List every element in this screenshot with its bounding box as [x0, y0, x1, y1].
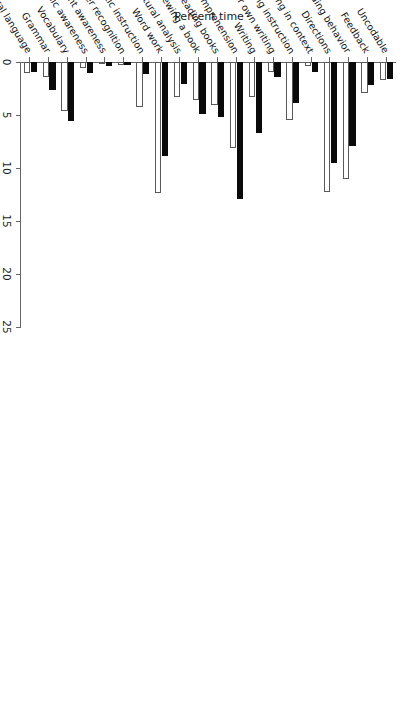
bar-group: Structural analysis [171, 62, 190, 327]
bar-group: Grammar [40, 62, 59, 327]
bar-group: Phonemic awareness [77, 62, 96, 327]
bar-group: Writing [246, 62, 265, 327]
bar-dark [256, 62, 262, 133]
bar-group: Reading their own writing [265, 62, 284, 327]
bar-dark [181, 62, 187, 84]
bar-group: Word work [152, 62, 171, 327]
bar-light [155, 62, 161, 193]
bar-light [118, 62, 124, 65]
bar-dark [106, 62, 112, 66]
bar-dark [199, 62, 205, 114]
bar-group: Oral language [21, 62, 40, 327]
bar-group: Vocabulary [59, 62, 78, 327]
bar-light [174, 62, 180, 97]
bar-group: Spelling instruction [284, 62, 303, 327]
value-axis-tick-label: 15 [1, 214, 13, 227]
bar-group: Spelling in context [302, 62, 321, 327]
bar-dark [274, 62, 280, 77]
bar-light [380, 62, 386, 80]
bar-light [43, 62, 49, 77]
plot-area: 0510152025Oral languageGrammarVocabulary… [21, 62, 396, 327]
bar-dark [143, 62, 149, 74]
bar-light [24, 62, 30, 73]
bar-group: Previewing a book [190, 62, 209, 327]
bar-light [211, 62, 217, 105]
value-axis-tick-label: 5 [1, 112, 13, 119]
bar-dark [312, 62, 318, 72]
bar-group: Letter recognition [115, 62, 134, 327]
bar-dark [124, 62, 130, 65]
bar-dark [368, 62, 374, 85]
bar-dark [68, 62, 74, 121]
bar-group: Book and print awareness [96, 62, 115, 327]
bar-dark [162, 62, 168, 156]
bar-dark [331, 62, 337, 163]
bar-dark [87, 62, 93, 73]
bar-light [305, 62, 311, 66]
bar-group: Reading books [209, 62, 228, 327]
bar-dark [218, 62, 224, 117]
value-axis-tick-label: 10 [1, 161, 13, 174]
bar-light [361, 62, 367, 93]
bar-dark [49, 62, 55, 90]
bar-light [230, 62, 236, 148]
bar-light [193, 62, 199, 100]
rotated-figure-wrapper: Percent time 0510152025Oral languageGram… [0, 0, 418, 706]
bar-light [80, 62, 86, 68]
bar-light [99, 62, 105, 64]
bar-group: Directions [321, 62, 340, 327]
value-axis-tick-label: 25 [1, 320, 13, 333]
bar-group: Feedback [359, 62, 378, 327]
bar-light [286, 62, 292, 120]
bar-light [136, 62, 142, 107]
value-axis-tick-label: 0 [1, 59, 13, 66]
bar-group: Alphabetic instruction [134, 62, 153, 327]
value-axis-tick [16, 327, 21, 328]
bar-light [61, 62, 67, 111]
bar-light [249, 62, 255, 97]
chart-figure: Percent time 0510152025Oral languageGram… [0, 0, 418, 706]
value-axis-tick-label: 20 [1, 267, 13, 280]
bar-light [268, 62, 274, 72]
bar-light [324, 62, 330, 192]
bar-group: Uncodable [377, 62, 396, 327]
bar-light [343, 62, 349, 179]
bar-dark [31, 62, 37, 72]
bar-dark [237, 62, 243, 199]
bar-dark [293, 62, 299, 103]
bar-dark [387, 62, 393, 79]
bar-group: Reading comprehension [227, 62, 246, 327]
bar-group: Nonreading behavior [340, 62, 359, 327]
bar-dark [349, 62, 355, 146]
